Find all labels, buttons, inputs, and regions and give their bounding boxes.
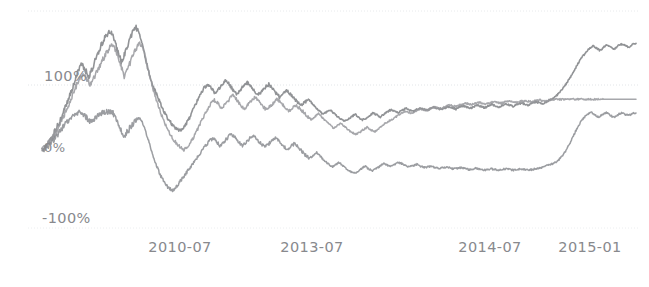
x-axis-tick-2015-01: 2015-01 bbox=[558, 239, 621, 255]
x-axis-tick-2010-07: 2010-07 bbox=[148, 239, 211, 255]
line-series-3 bbox=[42, 109, 636, 191]
y-axis-tick-minus-100: -100% bbox=[42, 210, 91, 226]
x-axis-tick-2014-07: 2014-07 bbox=[458, 239, 521, 255]
y-axis-tick-100: 100% bbox=[44, 68, 87, 84]
gridlines-group bbox=[28, 11, 640, 228]
chart-figure: 100% 0% -100% 2010-07 2013-07 2014-07 20… bbox=[0, 0, 649, 287]
line-series-2 bbox=[42, 42, 636, 151]
x-axis-tick-2013-07: 2013-07 bbox=[280, 239, 343, 255]
line-series-1 bbox=[42, 25, 636, 150]
series-group bbox=[42, 25, 636, 191]
y-axis-tick-0: 0% bbox=[44, 140, 65, 155]
